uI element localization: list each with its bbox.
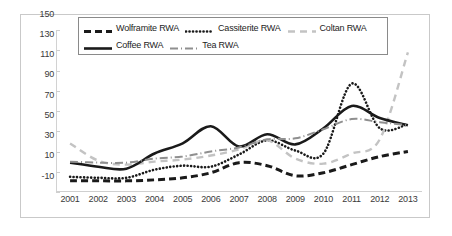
y-tick-label: 10 (22, 151, 54, 160)
y-tick-mark (56, 111, 60, 112)
series-line-coffee-rwa (70, 106, 408, 170)
x-tick-label: 2005 (173, 194, 192, 204)
x-tick-label: 2002 (89, 194, 108, 204)
y-tick-label: -10 (22, 172, 54, 181)
legend-label: Coffee RWA (116, 40, 163, 51)
x-tick-label: 2001 (60, 194, 79, 204)
series-line-wolframite-rwa (70, 152, 408, 181)
x-tick-label: 2009 (286, 194, 305, 204)
y-tick-label: 130 (22, 30, 54, 39)
series-line-cassiterite-rwa (70, 83, 408, 178)
y-tick-label: 70 (22, 91, 54, 100)
x-tick-label: 2004 (145, 194, 164, 204)
y-tick-mark (56, 172, 60, 173)
y-tick-mark (56, 30, 60, 31)
x-tick-label: 2008 (258, 194, 277, 204)
legend-swatch-icon (83, 23, 113, 34)
series-line-tea-rwa (70, 119, 408, 163)
legend-item-coltan-rwa[interactable]: Coltan RWA (287, 20, 367, 37)
x-tick-label: 2012 (370, 194, 389, 204)
legend-row: Wolframite RWACassiterite RWAColtan RWA (83, 20, 383, 37)
legend-label: Wolframite RWA (116, 23, 179, 34)
y-tick-mark (56, 50, 60, 51)
y-tick-label: 50 (22, 111, 54, 120)
y-tick-label: 110 (22, 50, 54, 59)
legend-swatch-icon (83, 40, 113, 51)
legend-swatch-icon (287, 23, 317, 34)
x-axis: 2001200220032004200520062007200820092010… (56, 194, 422, 208)
legend-label: Tea RWA (202, 40, 238, 51)
y-tick-label: 150 (22, 10, 54, 19)
legend-label: Coltan RWA (320, 23, 367, 34)
legend-item-cassiterite-rwa[interactable]: Cassiterite RWA (185, 20, 281, 37)
x-tick-label: 2007 (229, 194, 248, 204)
y-tick-mark (56, 91, 60, 92)
y-tick-mark (56, 71, 60, 72)
x-tick-label: 2003 (117, 194, 136, 204)
legend-swatch-icon (185, 23, 215, 34)
legend-item-coffee-rwa[interactable]: Coffee RWA (83, 37, 163, 54)
line-chart: -101030507090110130150 20012002200320042… (0, 0, 452, 236)
x-tick-label: 2013 (398, 194, 417, 204)
x-tick-label: 2010 (314, 194, 333, 204)
x-tick-label: 2006 (201, 194, 220, 204)
legend-row: Coffee RWATea RWA (83, 37, 383, 54)
legend-item-tea-rwa[interactable]: Tea RWA (169, 37, 238, 54)
y-tick-mark (56, 131, 60, 132)
legend: Wolframite RWACassiterite RWAColtan RWAC… (78, 17, 388, 55)
legend-swatch-icon (169, 40, 199, 51)
y-tick-mark (56, 192, 60, 193)
y-tick-label: 30 (22, 131, 54, 140)
y-tick-label: 90 (22, 70, 54, 79)
y-tick-mark (56, 152, 60, 153)
y-axis: -101030507090110130150 (22, 14, 54, 218)
x-tick-label: 2011 (342, 194, 361, 204)
legend-label: Cassiterite RWA (218, 23, 281, 34)
legend-item-wolframite-rwa[interactable]: Wolframite RWA (83, 20, 179, 37)
